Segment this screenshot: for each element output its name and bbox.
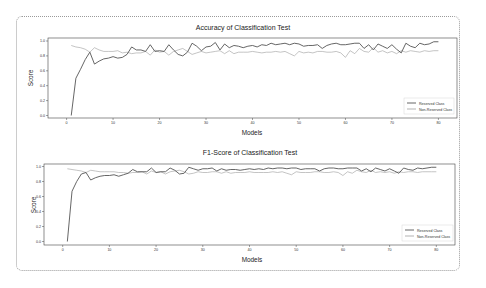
x-axis-label: Models [242,256,263,263]
legend-label-reserved: Reserved Class [417,229,443,233]
series-line-reserved [71,42,438,116]
x-axis-ticks: 01020304050607080 [62,245,439,252]
legend-label-non-reserved: Non-Reserved Class [417,235,450,239]
y-tick-label: 0.8 [36,180,41,184]
x-tick-label: 10 [107,248,111,252]
chart-legend: Reserved Class Non-Reserved Class [404,98,454,114]
y-tick-label: 0.6 [40,69,45,73]
legend-label-reserved: Reserved Class [419,102,445,106]
series-line-non-reserved [71,45,438,57]
accuracy-chart: Accuracy of Classification Test 0.00.20.… [27,24,457,136]
y-axis-label: Score [27,69,34,86]
chart-title: Accuracy of Classification Test [196,24,290,32]
plot-area [48,38,457,118]
x-tick-label: 40 [251,121,255,125]
series-lines [71,42,438,116]
x-tick-label: 70 [388,248,392,252]
x-tick-label: 40 [248,248,252,252]
x-tick-label: 30 [201,248,205,252]
legend-box [402,225,453,241]
x-tick-label: 70 [390,121,394,125]
x-tick-label: 0 [62,248,64,252]
x-tick-label: 60 [343,121,347,125]
y-tick-label: 0.2 [36,225,41,229]
y-tick-label: 0.2 [40,99,45,103]
y-axis-ticks: 0.00.20.40.60.81.0 [36,165,44,244]
x-tick-label: 80 [434,248,438,252]
y-tick-label: 0.0 [36,240,41,244]
figure-canvas: Accuracy of Classification Test 0.00.20.… [0,0,486,288]
series-line-reserved [67,167,436,241]
y-tick-label: 1.0 [40,39,45,43]
x-tick-label: 30 [204,121,208,125]
x-axis-label: Models [242,129,263,136]
legend-box [404,98,454,114]
y-tick-label: 0.0 [40,114,45,118]
x-tick-label: 0 [66,121,68,125]
f1-score-chart: F1-Score of Classification Test 0.00.20.… [30,149,455,263]
legend-label-non-reserved: Non-Reserved Class [419,108,452,112]
series-lines [67,167,436,241]
y-tick-label: 0.8 [40,54,45,58]
x-tick-label: 20 [158,121,162,125]
x-tick-label: 60 [341,248,345,252]
y-tick-label: 0.4 [40,84,45,88]
chart-legend: Reserved Class Non-Reserved Class [402,225,453,241]
x-tick-label: 50 [294,248,298,252]
chart-title: F1-Score of Classification Test [203,149,297,156]
x-tick-label: 50 [297,121,301,125]
y-axis-ticks: 0.00.20.40.60.81.0 [40,39,48,118]
x-tick-label: 20 [154,248,158,252]
y-tick-label: 1.0 [36,165,41,169]
x-axis-ticks: 01020304050607080 [66,118,441,125]
x-tick-label: 80 [436,121,440,125]
x-tick-label: 10 [111,121,115,125]
plot-area [44,164,455,245]
y-axis-label: Score [30,196,37,213]
